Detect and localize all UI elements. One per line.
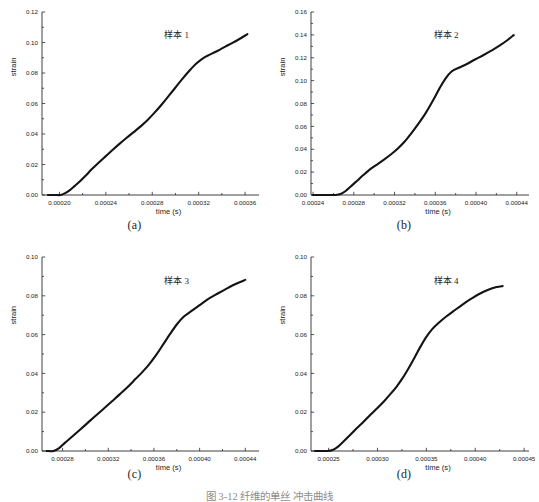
panel-d: 0.000.020.040.060.080.100.000250.000300.… [269,245,539,501]
series-label: 样本 4 [434,275,459,286]
x-axis-title: time (s) [425,207,451,216]
svg-text:0.00040: 0.00040 [188,455,211,462]
svg-text:0.00032: 0.00032 [97,455,120,462]
svg-text:0.12: 0.12 [295,54,308,61]
svg-text:0.00028: 0.00028 [51,455,74,462]
svg-text:0.04: 0.04 [295,145,308,152]
plot-area-a: 0.000.020.040.060.080.100.120.000200.000… [0,0,269,245]
svg-text:0.10: 0.10 [295,77,308,84]
series-label: 样本 1 [164,29,189,40]
svg-text:0.10: 0.10 [26,253,39,260]
svg-text:0.00028: 0.00028 [343,199,366,206]
y-axis-title: strain [278,58,287,77]
data-curve [47,280,246,451]
svg-text:0.08: 0.08 [295,100,308,107]
svg-text:0.00020: 0.00020 [48,199,71,206]
svg-text:0.00028: 0.00028 [141,199,164,206]
svg-text:0.00044: 0.00044 [506,199,529,206]
svg-text:0.04: 0.04 [26,370,39,377]
svg-text:0.00032: 0.00032 [383,199,406,206]
y-axis-title: strain [278,306,287,325]
panel-b: 0.000.020.040.060.080.100.120.140.160.00… [269,0,539,245]
data-curve [48,34,248,195]
svg-text:0.08: 0.08 [26,292,39,299]
panel-caption-c: (c) [0,467,269,482]
svg-text:0.00040: 0.00040 [464,455,487,462]
svg-text:0.00: 0.00 [26,191,39,198]
svg-text:0.08: 0.08 [26,69,39,76]
svg-text:0.00030: 0.00030 [366,455,389,462]
svg-text:0.04: 0.04 [295,370,308,377]
plot-area-d: 0.000.020.040.060.080.100.000250.000300.… [269,245,539,501]
svg-text:0.10: 0.10 [26,39,39,46]
svg-text:0.00045: 0.00045 [513,455,536,462]
svg-text:0.02: 0.02 [26,161,39,168]
plot-area-c: 0.000.020.040.060.080.100.000280.000320.… [0,245,269,501]
chart-a: 0.000.020.040.060.080.100.120.000200.000… [0,0,269,245]
svg-text:0.14: 0.14 [295,31,308,38]
svg-text:0.10: 0.10 [295,253,308,260]
svg-text:0.00035: 0.00035 [415,455,438,462]
svg-text:0.00: 0.00 [26,447,39,454]
svg-text:0.04: 0.04 [26,130,39,137]
svg-text:0.00024: 0.00024 [302,199,325,206]
panel-c: 0.000.020.040.060.080.100.000280.000320.… [0,245,269,501]
svg-text:0.06: 0.06 [295,331,308,338]
svg-text:0.00032: 0.00032 [187,199,210,206]
svg-text:0.00024: 0.00024 [95,199,118,206]
svg-text:0.00036: 0.00036 [143,455,166,462]
plot-area-b: 0.000.020.040.060.080.100.120.140.160.00… [269,0,539,245]
chart-d: 0.000.020.040.060.080.100.000250.000300.… [269,245,539,501]
data-curve [313,35,514,195]
chart-c: 0.000.020.040.060.080.100.000280.000320.… [0,245,269,501]
y-axis-title: strain [9,58,18,77]
svg-text:0.00: 0.00 [295,447,308,454]
svg-text:0.08: 0.08 [295,292,308,299]
svg-text:0.06: 0.06 [26,100,39,107]
svg-text:0.00040: 0.00040 [465,199,488,206]
svg-text:0.00036: 0.00036 [234,199,257,206]
figure-caption: 图 3-12 纤维的单丝 冲击曲线 [0,490,539,502]
svg-text:0.00: 0.00 [295,191,308,198]
chart-b: 0.000.020.040.060.080.100.120.140.160.00… [269,0,539,245]
svg-text:0.12: 0.12 [26,8,39,15]
x-axis-title: time (s) [156,207,182,216]
panel-caption-d: (d) [269,467,539,482]
series-label: 样本 3 [164,275,189,286]
svg-text:0.00025: 0.00025 [317,455,340,462]
panel-caption-a: (a) [0,218,269,233]
y-axis-title: strain [9,306,18,325]
svg-text:0.02: 0.02 [26,408,39,415]
panel-a: 0.000.020.040.060.080.100.120.000200.000… [0,0,269,245]
data-curve [315,286,503,451]
svg-text:0.16: 0.16 [295,8,308,15]
svg-text:0.02: 0.02 [295,168,308,175]
svg-text:0.06: 0.06 [295,123,308,130]
panel-caption-b: (b) [269,218,539,233]
svg-text:0.06: 0.06 [26,331,39,338]
svg-text:0.00036: 0.00036 [424,199,447,206]
series-label: 样本 2 [434,29,459,40]
svg-text:0.02: 0.02 [295,408,308,415]
svg-text:0.00044: 0.00044 [234,455,257,462]
